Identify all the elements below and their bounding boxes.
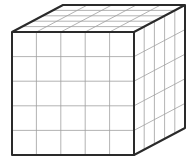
cube-diagram [0,0,189,161]
front-face [12,32,134,155]
